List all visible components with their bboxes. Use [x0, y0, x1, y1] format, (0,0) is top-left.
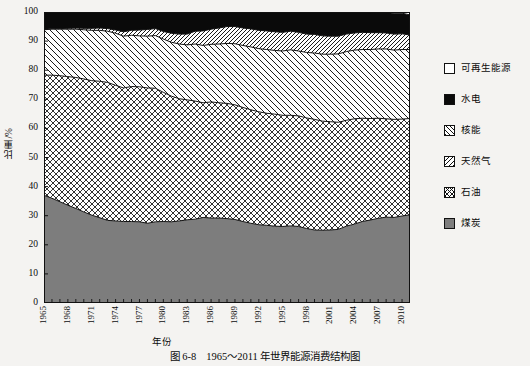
figure-caption: 图 6-81965～2011 年世界能源消费结构图	[0, 348, 530, 363]
legend-item: 石油	[444, 185, 530, 199]
x-tick-label: 1977	[135, 306, 144, 324]
x-tick-label: 1971	[87, 306, 96, 324]
figure-caption-text: 1965～2011 年世界能源消费结构图	[206, 351, 360, 362]
legend-item-label: 煤炭	[461, 218, 481, 229]
x-axis-tick-labels: 1965196819711974197719801983198619891992…	[44, 306, 410, 346]
y-tick-label: 40	[29, 182, 39, 192]
x-tick-label: 1998	[302, 306, 311, 324]
x-tick-label: 2004	[349, 306, 358, 324]
legend-swatch-gas	[444, 156, 455, 167]
x-tick-label: 1983	[182, 306, 191, 324]
legend-swatch-renewable	[444, 63, 455, 74]
x-axis-title: 年份	[152, 334, 172, 348]
y-tick-label: 10	[29, 269, 39, 279]
legend-item-label: 天然气	[461, 156, 491, 167]
legend-swatch-nuclear	[444, 125, 455, 136]
x-tick-label: 2010	[397, 306, 406, 324]
legend-item-label: 水电	[461, 94, 481, 105]
figure-container: 0102030405060708090100 比重/%	[0, 0, 530, 366]
legend-item-label: 可再生能源	[461, 63, 511, 74]
y-tick-label: 80	[29, 65, 39, 75]
x-tick-label: 1980	[158, 306, 167, 324]
x-tick-label: 1986	[206, 306, 215, 324]
x-tick-label: 2007	[373, 306, 382, 324]
y-tick-label: 100	[24, 7, 38, 17]
y-axis-title: 比重/%	[2, 128, 16, 159]
x-tick-label: 2001	[325, 306, 334, 324]
legend-swatch-oil	[444, 187, 455, 198]
legend-item-label: 核能	[461, 125, 481, 136]
x-tick-label: 1989	[230, 306, 239, 324]
y-axis-tick-labels: 0102030405060708090100	[0, 0, 38, 320]
legend-item: 煤炭	[444, 216, 530, 230]
x-tick-label: 1992	[254, 306, 263, 324]
chart-legend: 可再生能源水电核能天然气石油煤炭	[444, 61, 530, 247]
legend-item: 核能	[444, 123, 530, 137]
y-tick-label: 50	[29, 153, 39, 163]
stacked-area-chart	[44, 12, 410, 303]
x-tick-label: 1965	[39, 306, 48, 324]
legend-swatch-hydro	[444, 94, 455, 105]
y-tick-label: 60	[29, 123, 39, 133]
y-tick-label: 30	[29, 211, 39, 221]
legend-item: 水电	[444, 92, 530, 106]
x-tick-label: 1974	[111, 306, 120, 324]
legend-item: 天然气	[444, 154, 530, 168]
y-tick-label: 90	[29, 36, 39, 46]
legend-item: 可再生能源	[444, 61, 530, 75]
y-tick-label: 70	[29, 94, 39, 104]
x-tick-label: 1968	[63, 306, 72, 324]
figure-number: 图 6-8	[170, 351, 197, 362]
y-tick-label: 20	[29, 240, 39, 250]
plot-area	[44, 12, 410, 303]
legend-item-label: 石油	[461, 187, 481, 198]
x-tick-label: 1995	[278, 306, 287, 324]
legend-swatch-coal	[444, 218, 455, 229]
